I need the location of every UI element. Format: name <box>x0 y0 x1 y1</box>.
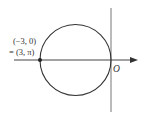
arrowhead-icon <box>130 57 138 63</box>
origin-label: O <box>113 64 120 74</box>
marked-point <box>38 58 42 62</box>
point-label-line2: = (3, π) <box>9 47 35 57</box>
point-label-line1: (−3, 0) <box>13 36 36 46</box>
polar-diagram: (−3, 0) = (3, π) O <box>0 0 143 116</box>
